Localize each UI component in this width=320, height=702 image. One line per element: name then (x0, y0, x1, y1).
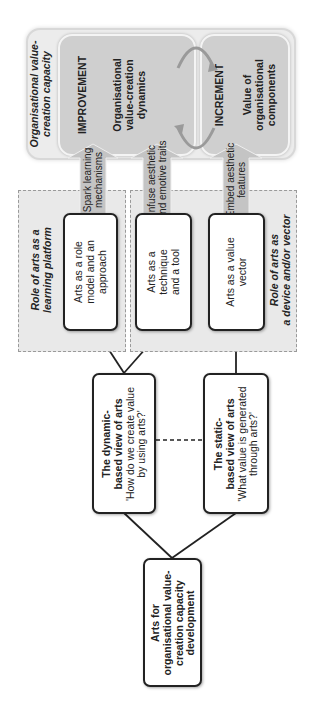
role-box-role-model: Arts as a role model and an approach (63, 213, 118, 331)
static-view-box: The static- based view of arts 'What val… (203, 373, 269, 514)
arrow-1-line1: Spark learning (82, 148, 93, 212)
role-2-line2: technique (158, 249, 170, 295)
role-3-line1: Arts as a value (225, 237, 237, 306)
dynamic-question-line2: by using arts?' (136, 386, 148, 500)
role-2-line3: and a tool (169, 249, 181, 295)
role-3-line2: vector (237, 237, 249, 306)
role-box-technique: Arts as a technique and a tool (135, 213, 192, 331)
arrow-3-line1: Embed aesthetic (225, 143, 236, 218)
root-box: Arts for organisational value- creation … (143, 558, 202, 687)
arrow-3-line2: features (236, 143, 247, 218)
dynamic-view-box: The dynamic- based view of arts 'How do … (92, 373, 156, 514)
arrow-label-1: Spark learning mechanisms (80, 146, 106, 214)
root-line4: development (184, 570, 196, 675)
root-line2: organisational value- (161, 570, 173, 675)
dynamic-title-line2: based view of arts (112, 386, 124, 500)
arrow-1-line2: mechanisms (93, 148, 104, 212)
arrow-2-line1: Infuse aesthetic (146, 141, 157, 220)
static-question-line2: through arts?' (248, 386, 260, 501)
root-line3: creation capacity (173, 570, 185, 675)
role-1-line3: approach (96, 240, 108, 304)
arrow-2-line2: and emotive traits (157, 141, 168, 220)
dynamic-title-line1: The dynamic- (101, 386, 113, 500)
role-2-line1: Arts as a (146, 249, 158, 295)
static-title-line1: The static- (213, 386, 225, 501)
arrow-label-3: Embed aesthetic features (223, 146, 249, 214)
role-1-line2: model and an (85, 240, 97, 304)
root-line1: Arts for (149, 570, 161, 675)
arrow-label-2: Infuse aesthetic and emotive traits (143, 146, 171, 214)
static-title-line2: based view of arts (224, 386, 236, 501)
role-1-line1: Arts as a role (73, 240, 85, 304)
role-box-value-vector: Arts as a value vector (208, 213, 265, 331)
